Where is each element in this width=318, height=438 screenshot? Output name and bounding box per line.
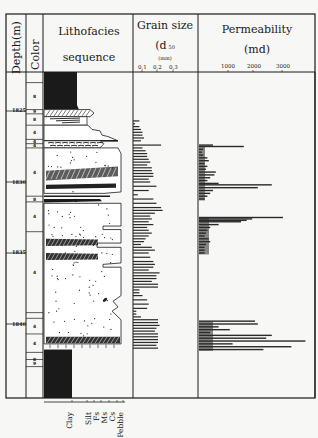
grain-size-header-line1: Grain size [133,20,197,31]
depth-label-1825: 1825 [12,108,26,113]
svg-text:9: 9 [33,361,36,366]
depth-label-1835: 1835 [12,250,26,255]
svg-text:8: 8 [33,117,36,122]
grain-size-d-label: (d [155,39,166,52]
svg-text:9: 9 [33,109,36,114]
permeability-bars [199,72,315,398]
grain-size-unit: (mm) [133,56,197,61]
grain-size-tick-0.2: 0,2 [153,65,162,71]
color-column: 89844448444489 [26,83,43,367]
lithofacies-header-line1: Lithofacies [44,26,134,37]
grain-size-tick-0.3: 0,3 [169,65,178,71]
svg-text:8: 8 [33,197,36,202]
permeability-header-line1: Permeability [198,24,316,35]
svg-text:4: 4 [33,270,36,275]
depth-label-1840: 1840 [12,322,26,327]
svg-text:4: 4 [33,130,36,135]
lithofacies-column [44,72,125,402]
svg-text:4: 4 [33,324,36,329]
color-header: Color [30,34,41,70]
depth-header: Depth(m) [11,24,22,74]
permeability-tick-3000: 3000 [276,64,290,70]
grain-size-tick-0.1: 0,1 [138,65,147,71]
svg-text:4: 4 [33,170,36,175]
permeability-tick-2000: 2000 [247,64,261,70]
grain-size-header-line2: (d50 [133,40,197,51]
svg-text:4: 4 [33,214,36,219]
svg-text:4: 4 [33,143,36,148]
grain-size-bars [133,120,163,348]
svg-text:8: 8 [33,94,36,99]
grain-size-subscript: 50 [168,44,174,50]
grain-class-clay: Clay [66,412,74,429]
depth-label-1830: 1830 [12,180,26,185]
svg-text:4: 4 [33,341,36,346]
permeability-header-line2: (md) [198,44,316,55]
lithofacies-header-line2: sequence [44,52,134,63]
grain-class-pebble: Pebble [117,412,125,438]
permeability-tick-1000: 1000 [221,64,235,70]
